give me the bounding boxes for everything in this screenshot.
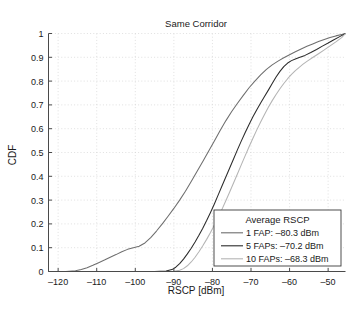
y-tick-label: 0.4 <box>31 172 44 182</box>
chart-title: Same Corridor <box>165 18 227 29</box>
cdf-plot-svg: –120–110–100–90–80–70–60–50 00.10.20.30.… <box>0 0 358 311</box>
y-tick-label: 1 <box>38 29 43 39</box>
y-tick-label: 0.9 <box>31 53 44 63</box>
legend-label: 1 FAP: –80.3 dBm <box>246 228 319 238</box>
y-tick-label: 0 <box>38 267 43 277</box>
y-tick-label: 0.1 <box>31 243 44 253</box>
legend-title: Average RSCP <box>245 214 309 225</box>
legend-label: 10 FAPs: –68.3 dBm <box>246 254 329 264</box>
y-tick-label: 0.8 <box>31 77 44 87</box>
y-tick-label: 0.3 <box>31 196 44 206</box>
y-tick-label: 0.2 <box>31 219 44 229</box>
legend-label: 5 FAPs: –70.2 dBm <box>246 241 324 251</box>
legend[interactable]: Average RSCP 1 FAP: –80.3 dBm5 FAPs: –70… <box>214 210 341 266</box>
chart-figure: –120–110–100–90–80–70–60–50 00.10.20.30.… <box>0 0 358 311</box>
y-axis-label: CDF <box>7 145 18 166</box>
x-tick-label: –120 <box>48 277 68 287</box>
x-tick-label: –60 <box>282 277 297 287</box>
y-tick-label: 0.6 <box>31 124 44 134</box>
x-tick-label: –50 <box>321 277 336 287</box>
x-tick-label: –70 <box>243 277 258 287</box>
y-tick-label: 0.5 <box>31 148 44 158</box>
x-axis-label: RSCP [dBm] <box>168 285 225 296</box>
x-tick-label: –110 <box>87 277 106 287</box>
x-tick-label: –100 <box>125 277 145 287</box>
y-tick-label: 0.7 <box>31 100 44 110</box>
